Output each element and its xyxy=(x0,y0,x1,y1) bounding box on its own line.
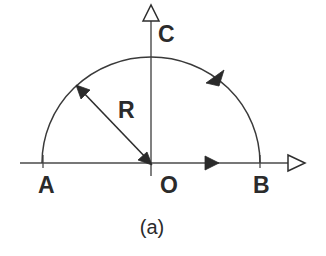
figure-caption: (a) xyxy=(140,216,164,238)
label-point-b: B xyxy=(253,172,270,198)
solid-triangle-right-icon xyxy=(205,156,219,170)
label-radius: R xyxy=(118,97,135,123)
hollow-triangle-up-icon xyxy=(143,5,159,21)
label-origin: O xyxy=(160,172,178,198)
contour-integration-figure: A B O C R (a) xyxy=(0,0,326,256)
label-point-a: A xyxy=(38,172,55,198)
label-point-c: C xyxy=(158,21,175,47)
figure-canvas: A B O C R (a) xyxy=(0,0,326,256)
hollow-triangle-right-icon xyxy=(288,155,305,171)
radius-arrow-line xyxy=(80,89,149,161)
